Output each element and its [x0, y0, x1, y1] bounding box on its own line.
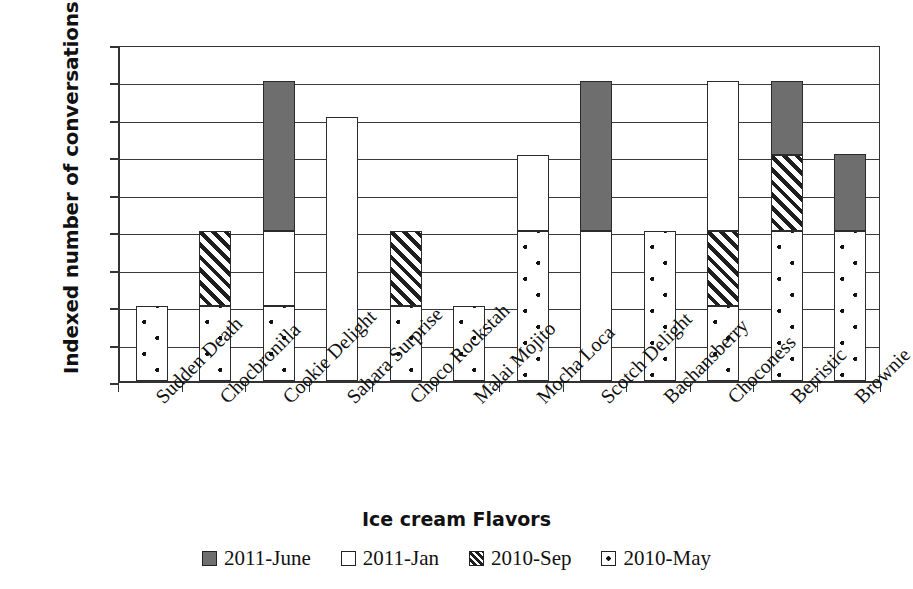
legend-swatch-2010-sep — [469, 551, 484, 566]
legend-label-2010-may: 2010-May — [623, 548, 711, 569]
chart-root: Indexed number of conversations 05010015… — [0, 0, 913, 589]
x-axis-title: Ice cream Flavors — [0, 508, 913, 530]
y-axis-title: Indexed number of conversations — [59, 44, 87, 374]
bar-segment-2011-june[interactable] — [263, 81, 295, 231]
bar-brownie[interactable] — [834, 44, 866, 381]
bar-segment-2010-sep[interactable] — [199, 231, 231, 306]
gridline-250 — [120, 197, 879, 198]
gridline-300 — [120, 159, 879, 160]
legend-label-2011-jan: 2011-Jan — [363, 548, 439, 569]
bar-berristic[interactable] — [771, 44, 803, 381]
bar-segment-2011-jan[interactable] — [517, 155, 549, 231]
bar-segment-2011-jan[interactable] — [263, 231, 295, 306]
legend-item-2011-june[interactable]: 2011-June — [202, 548, 311, 569]
bar-segment-2010-may[interactable] — [136, 306, 168, 381]
legend-item-2010-may[interactable]: 2010-May — [601, 548, 711, 569]
gridline-50 — [120, 347, 879, 348]
legend-swatch-2010-may — [601, 551, 616, 566]
gridline-200 — [120, 234, 879, 235]
legend-swatch-2011-june — [202, 551, 217, 566]
bar-sudden-death[interactable] — [136, 44, 168, 381]
legend-swatch-2011-jan — [341, 551, 356, 566]
legend-label-2011-june: 2011-June — [224, 548, 311, 569]
bar-segment-2011-june[interactable] — [771, 81, 803, 154]
bar-segment-2011-june[interactable] — [580, 81, 612, 231]
gridline-350 — [120, 122, 879, 123]
legend-label-2010-sep: 2010-Sep — [491, 548, 572, 569]
bar-segment-2010-sep[interactable] — [707, 231, 739, 306]
gridline-150 — [120, 272, 879, 273]
chart-legend: 2011-June2011-Jan2010-Sep2010-May — [0, 548, 913, 569]
legend-item-2011-jan[interactable]: 2011-Jan — [341, 548, 439, 569]
x-tick-mark-0 — [118, 383, 119, 392]
gridline-400 — [120, 84, 879, 85]
bar-segment-2011-jan[interactable] — [707, 81, 739, 231]
bar-segment-2010-sep[interactable] — [390, 231, 422, 306]
bar-segment-2010-sep[interactable] — [771, 155, 803, 231]
legend-item-2010-sep[interactable]: 2010-Sep — [469, 548, 572, 569]
bar-segment-2011-june[interactable] — [834, 154, 866, 231]
